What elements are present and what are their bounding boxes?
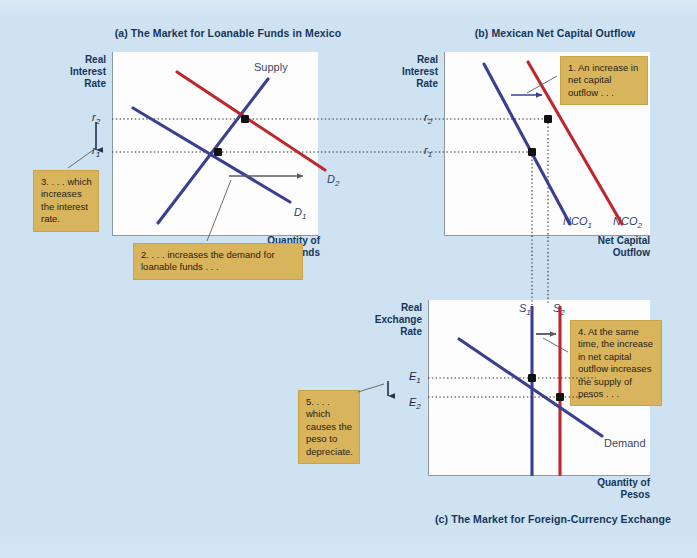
- panel-b-x-line1: Net Capital: [570, 235, 650, 247]
- callout-four: 4. At the same time, the increase in net…: [570, 320, 662, 406]
- callout-five-leader: [358, 384, 384, 392]
- panel-a-tick-r2: r2: [92, 111, 100, 126]
- figure-canvas: (a) The Market for Loanable Funds in Mex…: [0, 0, 697, 558]
- panel-b-y-line3: Rate: [372, 78, 438, 90]
- panel-c-x-axis-label: Quantity of Pesos: [570, 477, 650, 501]
- panel-c-x-line1: Quantity of: [570, 477, 650, 489]
- panel-b-y-line2: Interest: [372, 66, 438, 78]
- panel-b-tick-r2: r2: [424, 111, 432, 126]
- panel-b-x-line2: Outflow: [570, 247, 650, 259]
- panel-b-nco2-label: NCO2: [613, 215, 642, 230]
- panel-c-tick-e2: E2: [409, 396, 421, 411]
- panel-b-title: (b) Mexican Net Capital Outflow: [440, 27, 670, 39]
- panel-b-tick-r1: r1: [424, 144, 432, 159]
- panel-a-demand1-label: D1: [294, 206, 306, 221]
- panel-b-y-axis-label: Real Interest Rate: [372, 54, 438, 90]
- panel-a-demand2-label: D2: [327, 173, 339, 188]
- callout-two: 2. . . . increases the demand for loanab…: [133, 243, 303, 280]
- panel-b-x-axis-label: Net Capital Outflow: [570, 235, 650, 259]
- callout-one: 1. An increase in net capital outflow . …: [560, 56, 648, 105]
- callout-three: 3. . . . which increases the interest ra…: [33, 170, 99, 232]
- callout-five: 5. . . . which causes the peso to deprec…: [298, 390, 360, 464]
- panel-c-y-axis-label: Real Exchange Rate: [356, 302, 422, 338]
- panel-a-y-axis-label: Real Interest Rate: [40, 54, 106, 90]
- panel-b-nco1-label: NCO1: [563, 215, 592, 230]
- panel-c-y-line1: Real: [356, 302, 422, 314]
- panel-a-supply-label: Supply: [254, 61, 288, 73]
- panel-a-tick-r1: r1: [92, 144, 100, 159]
- panel-c-y-line2: Exchange: [356, 314, 422, 326]
- panel-a-title: (a) The Market for Loanable Funds in Mex…: [108, 27, 348, 39]
- panel-b-y-line1: Real: [372, 54, 438, 66]
- panel-c-x-line2: Pesos: [570, 489, 650, 501]
- panel-c-supply2-label: S2: [553, 302, 565, 317]
- panel-a-y-line2: Interest: [40, 66, 106, 78]
- panel-a-y-line3: Rate: [40, 78, 106, 90]
- panel-c-supply1-label: S1: [519, 302, 531, 317]
- panel-a-y-line1: Real: [40, 54, 106, 66]
- panel-c-demand-label: Demand: [604, 437, 646, 449]
- panel-c-tick-e1: E1: [409, 370, 421, 385]
- panel-a-plot-area: [112, 52, 318, 236]
- panel-c-title: (c) The Market for Foreign-Currency Exch…: [418, 513, 688, 525]
- panel-c-y-line3: Rate: [356, 326, 422, 338]
